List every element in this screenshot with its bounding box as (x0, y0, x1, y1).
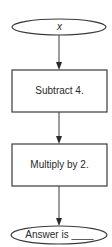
start-label: x (12, 20, 107, 34)
end-label: Answer is ____ (12, 228, 107, 242)
arrowhead-icon (56, 136, 62, 144)
arrowhead-icon (56, 218, 62, 226)
step2-label: Multiply by 2. (12, 158, 107, 172)
step1-label: Subtract 4. (12, 84, 107, 98)
arrowhead-icon (56, 62, 62, 70)
flowchart-diagram (0, 0, 112, 247)
